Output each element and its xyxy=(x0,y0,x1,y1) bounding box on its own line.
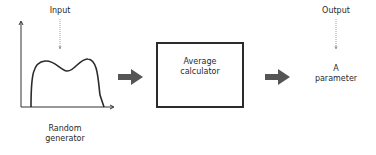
arrow-right-icon xyxy=(265,69,290,85)
generator-label-line2: generator xyxy=(40,134,90,144)
calculator-label: Average calculator xyxy=(180,57,219,77)
arrow-right-icon xyxy=(118,69,143,85)
distribution-curve xyxy=(31,59,104,107)
result-label-line2: parameter xyxy=(306,74,366,84)
average-calculator-box: Average calculator xyxy=(156,42,244,108)
result-label-line1: A xyxy=(306,64,366,74)
generator-label-line1: Random xyxy=(40,124,90,134)
result-label: A parameter xyxy=(306,64,366,84)
calculator-label-line2: calculator xyxy=(180,67,219,77)
input-label: Input xyxy=(40,6,80,16)
output-label: Output xyxy=(316,6,356,16)
calculator-label-line1: Average xyxy=(180,57,219,67)
generator-label: Random generator xyxy=(40,124,90,144)
